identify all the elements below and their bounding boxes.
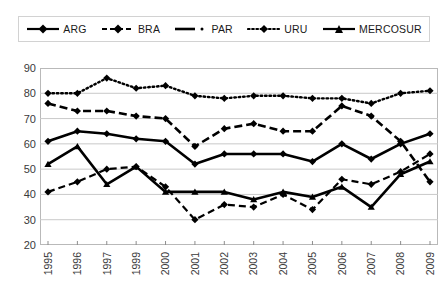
legend-item-uru[interactable]: URU bbox=[247, 23, 307, 35]
legend-item-par[interactable]: PAR bbox=[174, 23, 232, 35]
data-point bbox=[250, 150, 257, 157]
data-point bbox=[74, 107, 81, 114]
chart-legend: ARG BRA PAR bbox=[18, 16, 430, 42]
data-point bbox=[74, 178, 81, 185]
data-point bbox=[279, 128, 286, 135]
data-point bbox=[162, 82, 169, 89]
line-dashed-open-diamond-icon bbox=[101, 23, 135, 35]
x-tick: 2000 bbox=[159, 252, 173, 292]
x-tick-label: 1997 bbox=[102, 252, 113, 275]
line-dashed-diamond-icon bbox=[174, 23, 208, 35]
data-point bbox=[103, 107, 110, 114]
y-tick-label: 40 bbox=[8, 189, 36, 200]
data-point bbox=[103, 130, 110, 137]
data-point bbox=[338, 176, 345, 183]
x-tick: 2004 bbox=[276, 252, 290, 292]
legend-item-bra[interactable]: BRA bbox=[101, 23, 160, 35]
x-tick-label: 2002 bbox=[219, 252, 230, 275]
data-point bbox=[309, 95, 316, 102]
data-point bbox=[397, 90, 404, 97]
line-solid-triangle-icon bbox=[322, 23, 356, 35]
x-tick-label: 2001 bbox=[190, 252, 201, 275]
data-point bbox=[250, 203, 257, 210]
x-tick: 1996 bbox=[70, 252, 84, 292]
legend-item-mercosur[interactable]: MERCOSUR bbox=[322, 23, 422, 35]
data-point bbox=[74, 128, 81, 135]
x-tick-label: 2009 bbox=[425, 252, 436, 275]
y-tick-label: 80 bbox=[8, 88, 36, 99]
legend-label-mercosur: MERCOSUR bbox=[359, 23, 422, 35]
series-par bbox=[44, 100, 433, 186]
x-tick: 2005 bbox=[305, 252, 319, 292]
series-bra bbox=[44, 150, 433, 223]
x-tick-label: 1999 bbox=[131, 252, 142, 275]
data-point bbox=[368, 181, 375, 188]
data-point bbox=[279, 150, 286, 157]
x-tick-label: 2005 bbox=[307, 252, 318, 275]
legend-label-uru: URU bbox=[284, 23, 307, 35]
data-point bbox=[221, 125, 228, 132]
x-tick: 2003 bbox=[247, 252, 261, 292]
x-tick: 1995 bbox=[41, 252, 55, 292]
line-dotted-diamond-icon bbox=[247, 23, 281, 35]
line-chart: ARG BRA PAR bbox=[0, 0, 448, 295]
data-point bbox=[368, 100, 375, 107]
line-solid-diamond-icon bbox=[26, 23, 60, 35]
x-tick-label: 1995 bbox=[43, 252, 54, 275]
data-point bbox=[44, 100, 51, 107]
legend-label-par: PAR bbox=[211, 23, 232, 35]
legend-label-arg: ARG bbox=[63, 23, 86, 35]
x-tick-label: 2006 bbox=[337, 252, 348, 275]
y-tick-label: 50 bbox=[8, 164, 36, 175]
legend-label-bra: BRA bbox=[138, 23, 160, 35]
x-axis: 1995199619971999200020012002200320042005… bbox=[40, 250, 438, 294]
x-tick-label: 2004 bbox=[278, 252, 289, 275]
y-tick-label: 70 bbox=[8, 113, 36, 124]
y-tick-label: 30 bbox=[8, 214, 36, 225]
series-uru bbox=[44, 75, 433, 107]
x-tick-label: 2008 bbox=[395, 252, 406, 275]
data-point bbox=[221, 150, 228, 157]
data-point bbox=[338, 95, 345, 102]
data-point bbox=[44, 90, 51, 97]
y-axis: 2030405060708090 bbox=[4, 68, 36, 245]
x-tick: 1999 bbox=[129, 252, 143, 292]
x-tick-label: 2003 bbox=[248, 252, 259, 275]
legend-item-arg[interactable]: ARG bbox=[26, 23, 86, 35]
x-tick: 2002 bbox=[217, 252, 231, 292]
x-tick: 2009 bbox=[423, 252, 437, 292]
data-point bbox=[133, 135, 140, 142]
data-point bbox=[309, 128, 316, 135]
data-point bbox=[133, 85, 140, 92]
x-tick: 1997 bbox=[100, 252, 114, 292]
y-tick-label: 60 bbox=[8, 138, 36, 149]
data-point bbox=[426, 130, 433, 137]
plot-area bbox=[40, 68, 438, 245]
x-tick-label: 2007 bbox=[366, 252, 377, 275]
x-tick-label: 1996 bbox=[72, 252, 83, 275]
y-tick-label: 90 bbox=[8, 63, 36, 74]
x-tick: 2006 bbox=[335, 252, 349, 292]
x-tick: 2008 bbox=[394, 252, 408, 292]
x-tick: 2007 bbox=[364, 252, 378, 292]
data-point bbox=[221, 95, 228, 102]
x-tick-label: 2000 bbox=[160, 252, 171, 275]
data-point bbox=[250, 120, 257, 127]
data-point bbox=[103, 166, 110, 173]
series-arg bbox=[44, 128, 433, 168]
y-tick-label: 20 bbox=[8, 240, 36, 251]
x-tick: 2001 bbox=[188, 252, 202, 292]
